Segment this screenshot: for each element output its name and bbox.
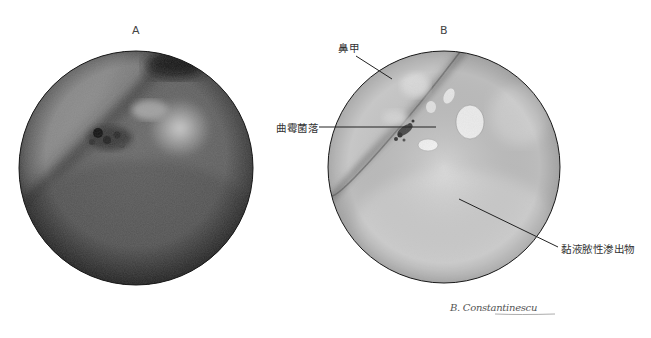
annotation-turbinate: 鼻甲	[338, 40, 359, 55]
panel-b-drawing	[328, 50, 560, 283]
annotation-aspergillus-colony: 曲霉菌落	[276, 120, 318, 135]
artist-signature: B. Constantinescu	[450, 302, 537, 313]
annotation-mucopurulent-exudate: 黏液脓性渗出物	[561, 241, 635, 256]
signature-flourish	[495, 314, 555, 315]
figure-canvas	[0, 0, 651, 338]
panel-a-photo	[19, 51, 260, 300]
